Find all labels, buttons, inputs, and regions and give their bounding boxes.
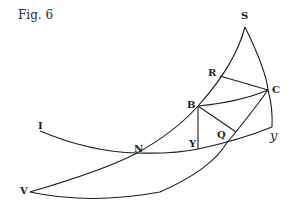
label-I: I — [38, 121, 43, 131]
label-N: N — [134, 144, 143, 154]
figure-canvas: Fig. 6 S R C B I N Y Q y V — [0, 0, 294, 209]
label-S: S — [241, 11, 248, 21]
line-R-C — [220, 76, 268, 90]
label-B: B — [187, 100, 195, 110]
arc-V-S — [30, 27, 245, 192]
label-y: y — [270, 129, 277, 142]
label-V: V — [20, 186, 28, 196]
label-Y: Y — [189, 139, 196, 149]
arc-V-C — [30, 90, 268, 199]
arc-S-y — [245, 27, 272, 127]
geometric-diagram — [0, 0, 294, 209]
label-C: C — [272, 85, 280, 95]
label-R: R — [208, 68, 216, 78]
label-Q: Q — [217, 130, 226, 140]
